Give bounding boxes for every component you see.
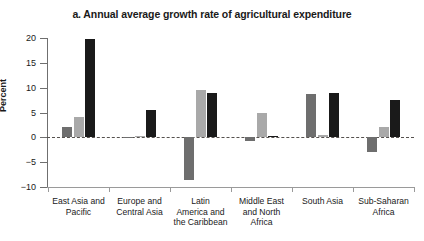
- bar: [390, 100, 400, 137]
- y-tick-label: 20: [2, 33, 36, 43]
- bar: [367, 137, 377, 152]
- bar: [196, 90, 206, 137]
- chart-container: a. Annual average growth rate of agricul…: [0, 0, 424, 241]
- bar: [74, 117, 84, 137]
- x-category-label: Latin America and the Caribbean: [167, 196, 234, 228]
- bar: [62, 127, 72, 137]
- x-category-label: South Asia: [289, 196, 356, 207]
- chart-title: a. Annual average growth rate of agricul…: [0, 8, 424, 20]
- x-category-label: Europe and Central Asia: [106, 196, 173, 217]
- bar: [257, 113, 267, 137]
- bar: [245, 137, 255, 141]
- bar: [268, 136, 278, 137]
- x-tick: [353, 187, 354, 192]
- x-category-label: East Asia and Pacific: [45, 196, 112, 217]
- x-tick: [292, 187, 293, 192]
- plot-area: [48, 38, 414, 187]
- y-tick-label: 10: [2, 83, 36, 93]
- bar: [329, 93, 339, 138]
- x-tick: [109, 187, 110, 192]
- bar: [318, 135, 328, 137]
- bar: [184, 137, 194, 179]
- bar: [379, 127, 389, 137]
- x-category-label: Sub-Saharan Africa: [350, 196, 417, 217]
- x-category-label: Middle East and North Africa: [228, 196, 295, 228]
- bar: [135, 136, 145, 137]
- x-tick: [414, 187, 415, 192]
- bar: [85, 39, 95, 137]
- y-tick-label: 15: [2, 58, 36, 68]
- bar: [207, 93, 217, 138]
- y-tick: [40, 113, 47, 114]
- y-tick-label: 0: [2, 132, 36, 142]
- y-tick-label: 5: [2, 108, 36, 118]
- bar: [123, 137, 133, 138]
- y-tick: [40, 88, 47, 89]
- x-tick: [231, 187, 232, 192]
- y-tick-label: −10: [2, 182, 36, 192]
- x-tick: [170, 187, 171, 192]
- y-tick: [40, 162, 47, 163]
- bar: [306, 94, 316, 138]
- y-tick: [40, 187, 47, 188]
- x-tick: [48, 187, 49, 192]
- bar: [146, 110, 156, 137]
- y-tick-label: −5: [2, 157, 36, 167]
- y-tick: [40, 137, 47, 138]
- y-tick: [40, 38, 47, 39]
- y-tick: [40, 63, 47, 64]
